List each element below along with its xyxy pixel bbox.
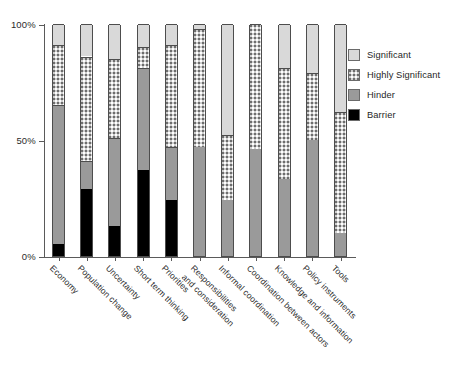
x-tick-mark [284,257,285,261]
legend-item-highly-significant[interactable]: Highly Significant [348,66,440,83]
legend-label: Significant [367,50,411,60]
x-tick-mark [87,257,88,261]
x-label-tools: Tools [329,263,351,285]
legend-item-significant[interactable]: Significant [348,46,440,63]
x-label-policy-instruments: Policy instruments [301,263,359,321]
legend-label: Highly Significant [367,70,440,80]
legend-label: Hinder [367,90,395,100]
x-tick-mark [171,257,172,261]
x-tick-mark [143,257,144,261]
legend-label: Barrier [367,110,396,120]
x-tick-mark [228,257,229,261]
stacked-bar-chart: 100% 50% 0% EconomyPopulation changeUnce… [0,0,468,382]
legend-swatch-icon [348,49,360,61]
x-tick-mark [341,257,342,261]
x-tick-mark [115,257,116,261]
legend-item-hinder[interactable]: Hinder [348,86,440,103]
legend-item-barrier[interactable]: Barrier [348,106,440,123]
legend-swatch-icon [348,109,360,121]
x-tick-mark [59,257,60,261]
chart-legend: SignificantHighly SignificantHinderBarri… [348,46,440,126]
legend-swatch-icon [348,89,360,101]
x-label-economy: Economy [47,263,80,296]
x-tick-mark [256,257,257,261]
legend-swatch-icon [348,69,360,81]
x-tick-mark [312,257,313,261]
x-tick-mark [200,257,201,261]
